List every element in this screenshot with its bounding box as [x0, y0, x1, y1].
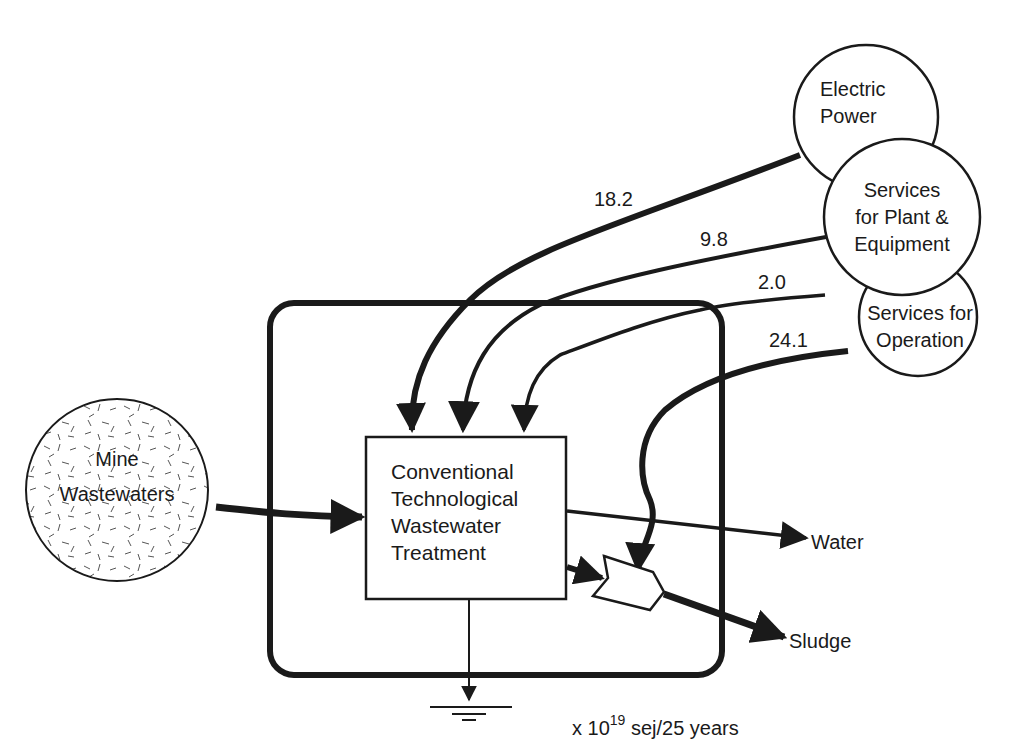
units-label: x 1019 sej/25 years [572, 710, 739, 740]
label-line: Wastewaters [40, 481, 194, 508]
flow-sludge-into-interaction [567, 567, 602, 578]
label-line: Services [832, 177, 972, 204]
flow-value-electric: 18.2 [594, 187, 633, 211]
label-line: Technological [391, 485, 518, 512]
label-line: for Plant & [832, 204, 972, 231]
label-line: Electric [820, 76, 920, 103]
label-line: Wastewater [391, 512, 518, 539]
label-line: Equipment [832, 231, 972, 258]
flow-mine-input [216, 507, 362, 517]
sludge-output-label: Sludge [789, 629, 851, 653]
flow-value-plant: 9.8 [700, 227, 728, 251]
units-exponent: 19 [610, 712, 626, 728]
units-suffix: sej/25 years [625, 717, 738, 739]
electric-power-label: Electric Power [820, 76, 920, 130]
services-plant-label: Services for Plant & Equipment [832, 177, 972, 258]
water-output-label: Water [811, 530, 864, 554]
label-line: Treatment [391, 539, 518, 566]
ground-icon [430, 707, 512, 720]
label-line: Power [820, 103, 920, 130]
interaction-symbol [593, 556, 664, 610]
flow-value-operation-sludge: 24.1 [769, 328, 808, 352]
process-label: Conventional Technological Wastewater Tr… [391, 458, 518, 566]
units-prefix: x 10 [572, 717, 610, 739]
label-line: Operation [858, 327, 982, 354]
label-line: Mine [40, 446, 194, 473]
flow-water-output [567, 511, 806, 538]
mine-wastewaters-label: Mine Wastewaters [40, 446, 194, 508]
flow-value-operation: 2.0 [758, 270, 786, 294]
label-line: Conventional [391, 458, 518, 485]
services-operation-label: Services for Operation [858, 300, 982, 354]
label-line: Services for [858, 300, 982, 327]
